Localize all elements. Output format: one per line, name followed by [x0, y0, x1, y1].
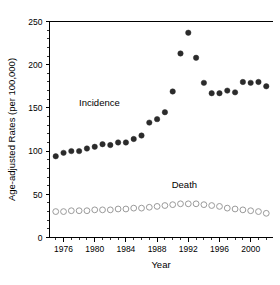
data-point-death-1988	[154, 203, 160, 209]
data-point-death-1985	[131, 205, 137, 211]
data-point-incidence-1998	[232, 90, 237, 95]
data-point-incidence-1981	[100, 141, 105, 146]
data-point-death-1994	[201, 202, 207, 208]
data-point-death-1977	[68, 208, 74, 214]
data-point-incidence-1996	[217, 91, 222, 96]
data-point-incidence-1983	[115, 140, 120, 145]
data-point-death-1980	[92, 207, 98, 213]
data-point-incidence-1982	[108, 142, 113, 147]
data-point-death-2000	[248, 208, 254, 214]
data-point-incidence-1984	[123, 140, 128, 145]
series-annotations: IncidenceDeath	[79, 97, 197, 190]
y-tick-label-150: 150	[28, 103, 42, 113]
data-point-death-1990	[170, 202, 176, 208]
data-point-death-1998	[232, 206, 238, 212]
x-axis: 1976198019841988199219962000	[50, 238, 273, 254]
data-point-incidence-1997	[225, 88, 230, 93]
data-point-incidence-1995	[209, 91, 214, 96]
data-point-incidence-1990	[170, 89, 175, 94]
y-tick-label-0: 0	[38, 233, 43, 243]
data-point-incidence-2000	[248, 80, 253, 85]
data-point-incidence-1975	[53, 154, 58, 159]
data-point-incidence-1977	[69, 148, 74, 153]
y-tick-label-100: 100	[28, 146, 42, 156]
data-point-incidence-1991	[178, 51, 183, 56]
data-point-death-2002	[263, 210, 269, 216]
data-point-death-1999	[240, 207, 246, 213]
x-tick-label-1992: 1992	[179, 244, 198, 254]
y-tick-label-250: 250	[28, 17, 42, 27]
data-point-death-1986	[139, 205, 145, 211]
annotation-death: Death	[172, 179, 197, 190]
data-point-incidence-2001	[256, 79, 261, 84]
data-point-death-1987	[146, 204, 152, 210]
data-point-death-1989	[162, 203, 168, 209]
x-tick-label-1984: 1984	[116, 244, 135, 254]
data-point-death-1993	[193, 201, 199, 207]
data-point-incidence-1999	[240, 79, 245, 84]
x-axis-title: Year	[151, 259, 170, 270]
scatter-plot-canvas: 050100150200250 197619801984198819921996…	[0, 0, 280, 285]
data-point-incidence-1985	[131, 136, 136, 141]
x-tick-label-1988: 1988	[148, 244, 167, 254]
series-death-points	[53, 201, 269, 216]
data-point-death-1997	[224, 205, 230, 211]
data-point-incidence-1994	[201, 80, 206, 85]
annotation-incidence: Incidence	[79, 97, 120, 108]
y-tick-label-200: 200	[28, 60, 42, 70]
chart-figure: 050100150200250 197619801984198819921996…	[0, 0, 280, 285]
data-point-incidence-1978	[76, 148, 81, 153]
data-point-death-1976	[61, 209, 67, 215]
data-point-incidence-1992	[186, 30, 191, 35]
data-point-death-1982	[107, 207, 113, 213]
data-point-incidence-1979	[84, 146, 89, 151]
data-point-incidence-1976	[61, 150, 66, 155]
data-point-death-2001	[256, 209, 262, 215]
data-point-death-1996	[217, 203, 223, 209]
data-point-incidence-1989	[162, 110, 167, 115]
y-axis-title: Age-adjusted Rates (per 100,000)	[6, 58, 17, 201]
y-tick-label-50: 50	[33, 190, 43, 200]
data-point-death-1992	[185, 201, 191, 207]
data-point-incidence-1988	[154, 116, 159, 121]
data-point-death-1975	[53, 209, 59, 215]
data-point-incidence-1980	[92, 144, 97, 149]
data-point-death-1979	[84, 208, 90, 214]
data-point-death-1981	[100, 207, 106, 213]
data-point-death-1983	[115, 206, 121, 212]
data-point-death-1995	[209, 203, 215, 209]
x-tick-label-1996: 1996	[210, 244, 229, 254]
data-point-incidence-1986	[139, 133, 144, 138]
x-tick-label-2000: 2000	[241, 244, 260, 254]
data-point-incidence-2002	[264, 84, 269, 89]
data-point-death-1991	[178, 201, 184, 207]
x-tick-label-1976: 1976	[54, 244, 73, 254]
x-tick-label-1980: 1980	[85, 244, 104, 254]
data-point-incidence-1993	[193, 55, 198, 60]
data-point-incidence-1987	[147, 120, 152, 125]
data-point-death-1984	[123, 206, 129, 212]
data-point-death-1978	[76, 208, 82, 214]
series-incidence-points	[53, 30, 269, 159]
